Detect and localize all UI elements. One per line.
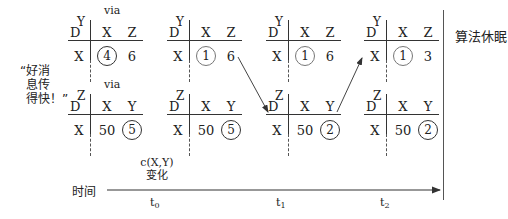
- tick-t1: t1: [276, 196, 286, 210]
- event-label: c(X,Y) 变化: [137, 156, 177, 182]
- event-label-line1: c(X,Y): [137, 156, 177, 169]
- update-arrow-1: [238, 57, 268, 112]
- event-label-line2: 变化: [137, 169, 177, 182]
- tick-t2: t2: [380, 196, 390, 210]
- tick-t0: t0: [150, 196, 160, 210]
- time-label: 时间: [72, 182, 96, 199]
- update-arrow-2: [337, 58, 362, 112]
